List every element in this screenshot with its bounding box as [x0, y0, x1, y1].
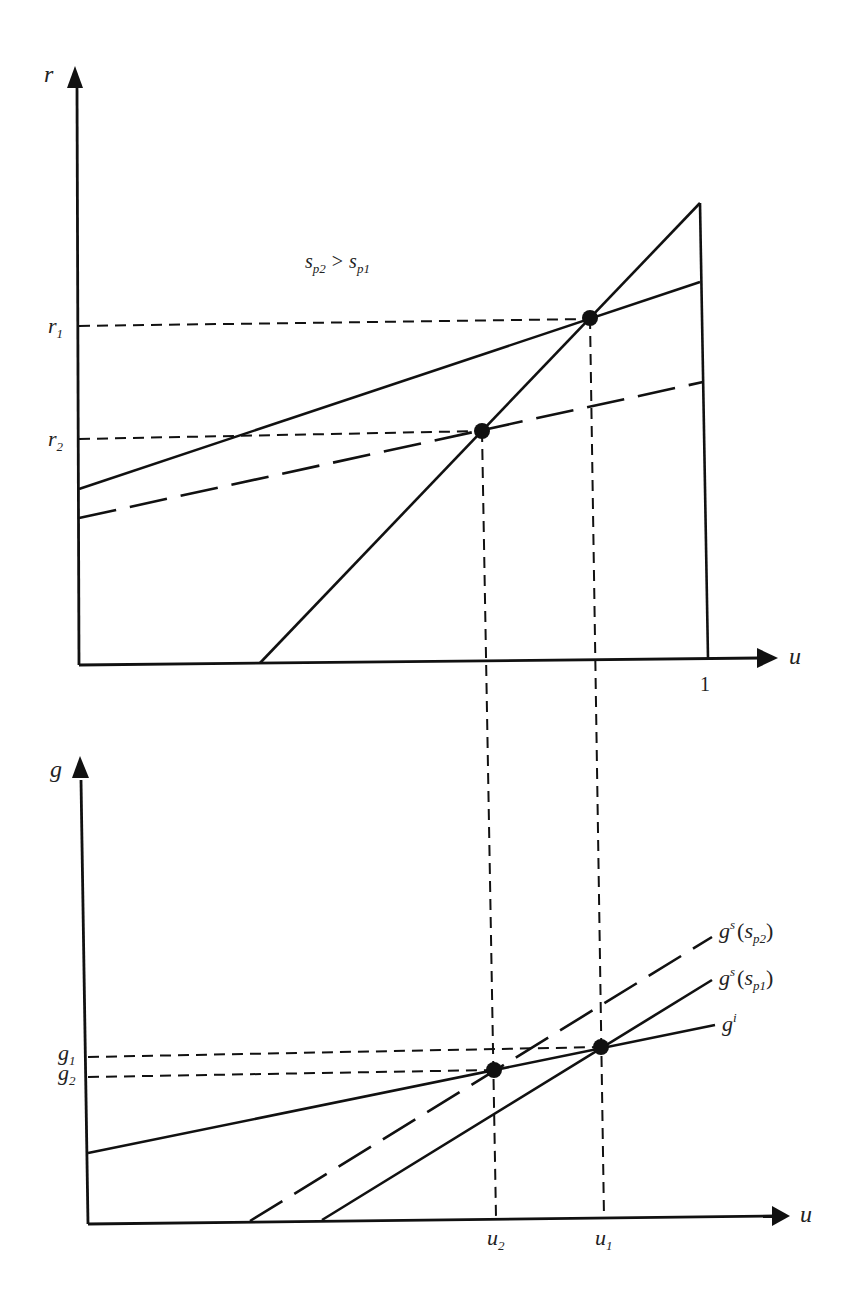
r2-guide — [79, 431, 482, 439]
gi-label: gi — [722, 1010, 737, 1036]
r1-label: r1 — [48, 313, 63, 341]
gs-sp1-line — [322, 980, 712, 1220]
u1-connector — [590, 318, 604, 1217]
gs-sp2-line — [250, 937, 712, 1221]
gs-sp1-label: gs(sp1) — [719, 964, 773, 993]
u2-label: u2 — [487, 1225, 505, 1253]
bottom-y-axis-arrow-icon — [72, 756, 89, 778]
top-x-axis-label: u — [789, 643, 801, 669]
gi-line — [88, 1025, 715, 1153]
u1-label: u1 — [595, 1225, 613, 1253]
top-x-tick-one: 1 — [700, 673, 710, 695]
diagram-canvas: r u 1 r1 r2 sp2>sp1 g — [0, 0, 853, 1299]
top-y-axis-label: r — [44, 61, 54, 87]
top-x-axis-arrow-icon — [757, 648, 778, 668]
gs-sp2-label: gs(sp2) — [719, 917, 773, 946]
bottom-y-axis-label: g — [50, 756, 62, 782]
bottom-equilibrium-1 — [593, 1039, 609, 1055]
full-employment-boundary — [700, 203, 708, 658]
bottom-y-axis — [81, 780, 88, 1224]
top-x-axis — [79, 658, 760, 665]
r2-label: r2 — [48, 426, 64, 454]
u2-connector — [482, 431, 496, 1217]
bottom-equilibrium-2 — [486, 1062, 502, 1078]
r-schedule-sp1-line — [79, 282, 700, 489]
r-schedule-sp2-line — [79, 382, 703, 518]
bottom-x-axis — [88, 1216, 775, 1224]
bottom-panel: g u g1 g2 u2 u1 gs(sp2) gs(sp1) gi — [50, 756, 812, 1253]
top-y-axis — [77, 88, 79, 665]
top-y-axis-arrow-icon — [67, 66, 83, 88]
saving-condition-annotation: sp2>sp1 — [305, 250, 370, 276]
r1-guide — [79, 319, 590, 326]
bottom-x-axis-label: u — [800, 1201, 812, 1227]
g2-guide — [88, 1070, 494, 1077]
top-panel: r u 1 r1 r2 sp2>sp1 — [44, 61, 801, 695]
bottom-x-axis-arrow-icon — [772, 1206, 790, 1226]
